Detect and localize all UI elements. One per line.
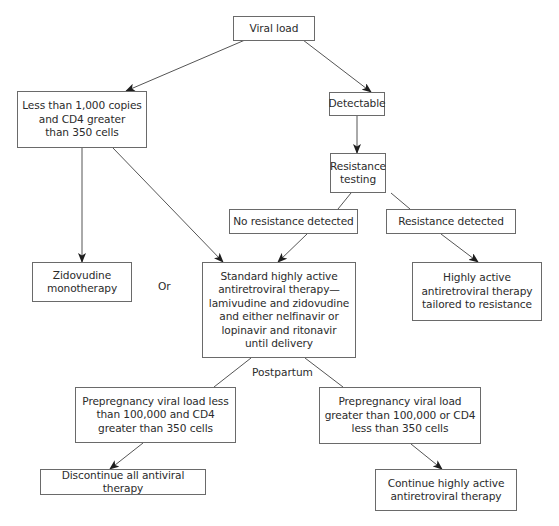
- connector-resistance-testing-to-no-resistance: [338, 193, 351, 209]
- or-label: Or: [158, 280, 171, 293]
- node-resistance-testing: Resistance testing: [330, 153, 386, 193]
- arrow-prepreg-high-to-continue: [411, 444, 442, 469]
- node-zidovudine-monotherapy: Zidovudine monotherapy: [32, 262, 132, 302]
- node-prepregnancy-low: Prepregnancy viral load less than 100,00…: [75, 387, 236, 443]
- arrow-viral-load-to-low-viral-load: [126, 40, 245, 91]
- node-prepregnancy-high: Prepregnancy viral load greater than 100…: [319, 387, 481, 444]
- flowchart-canvas: Viral load Less than 1,000 copies and CD…: [0, 0, 559, 526]
- arrow-low-viral-load-to-standard-haart: [113, 148, 223, 262]
- connector-resistance-testing-to-resistance: [391, 193, 410, 209]
- arrow-prepreg-low-to-discontinue: [110, 443, 143, 469]
- arrow-no-resistance-to-standard-haart: [278, 234, 307, 262]
- postpartum-label: Postpartum: [252, 366, 313, 379]
- node-resistance-detected: Resistance detected: [386, 209, 516, 234]
- node-discontinue-therapy: Discontinue all antiviral therapy: [40, 469, 206, 495]
- node-tailored-haart: Highly active antiretroviral therapy tai…: [412, 262, 542, 321]
- arrow-resistance-to-tailored-haart: [441, 234, 478, 262]
- node-no-resistance-detected: No resistance detected: [229, 209, 358, 234]
- node-low-viral-load: Less than 1,000 copies and CD4 greater t…: [17, 91, 147, 148]
- node-standard-haart: Standard highly active antiretroviral th…: [202, 262, 356, 358]
- node-viral-load: Viral load: [233, 16, 315, 41]
- node-detectable: Detectable: [329, 92, 385, 116]
- node-continue-haart: Continue highly active antiretroviral th…: [375, 469, 517, 511]
- cropped-caption: [28, 518, 398, 526]
- connector-standard-haart-to-prepreg-low: [214, 358, 251, 387]
- arrow-viral-load-to-detectable: [303, 40, 371, 92]
